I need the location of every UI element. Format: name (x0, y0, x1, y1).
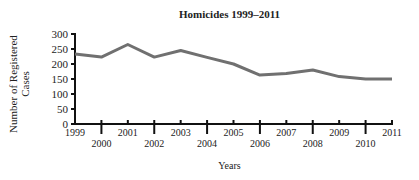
x-tick-label: 1999 (65, 127, 85, 138)
line-chart: 050100150200250300 199920002001200220032… (0, 0, 419, 180)
x-tick-label: 2009 (329, 127, 349, 138)
x-tick-label: 2010 (356, 138, 376, 149)
x-tick-label: 2008 (303, 138, 323, 149)
homicides-line (75, 45, 392, 80)
x-tick-label: 2001 (118, 127, 138, 138)
x-tick-label: 2011 (382, 127, 402, 138)
x-axis: 1999200020012002200320042005200620072008… (65, 120, 402, 149)
x-tick-label: 2000 (91, 138, 111, 149)
y-tick-label: 150 (52, 73, 69, 85)
x-tick-label: 2005 (224, 127, 244, 138)
y-tick-label: 100 (52, 88, 69, 100)
y-tick-label: 250 (52, 43, 69, 55)
x-tick-label: 2003 (171, 127, 191, 138)
x-tick-label: 2004 (197, 138, 217, 149)
x-tick-label: 2007 (276, 127, 296, 138)
y-tick-label: 200 (52, 58, 69, 70)
y-tick-label: 300 (52, 28, 69, 40)
x-tick-label: 2002 (144, 138, 164, 149)
x-tick-label: 2006 (250, 138, 270, 149)
y-axis: 050100150200250300 (52, 28, 76, 130)
y-tick-label: 50 (57, 103, 69, 115)
